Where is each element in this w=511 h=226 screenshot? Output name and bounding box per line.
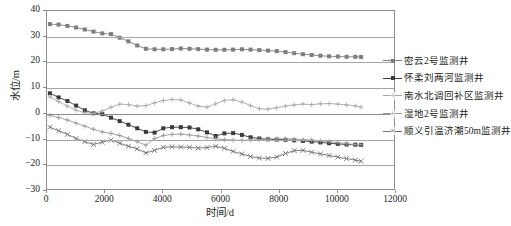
legend-marker-icon: × <box>383 125 402 137</box>
series-1 <box>48 22 363 59</box>
data-point <box>275 49 279 53</box>
y-tick-label: −10 <box>0 134 40 144</box>
series-line <box>50 115 361 145</box>
data-point <box>83 28 87 32</box>
data-point <box>196 127 200 131</box>
data-point <box>213 101 218 106</box>
data-point <box>117 141 122 146</box>
data-point <box>170 47 174 51</box>
data-point <box>74 104 78 108</box>
x-tick-label: 2000 <box>81 195 127 205</box>
data-point <box>187 133 192 138</box>
gridline-y-20 <box>47 62 394 63</box>
data-point <box>100 129 105 134</box>
y-tick-mark <box>43 36 46 37</box>
data-point <box>117 102 122 107</box>
data-point <box>161 47 165 51</box>
data-point <box>318 101 323 106</box>
x-tick-mark <box>279 190 280 193</box>
data-point <box>359 105 364 110</box>
data-point <box>239 100 244 105</box>
y-tick-label: −30 <box>0 185 40 195</box>
data-point <box>345 55 349 59</box>
data-point <box>283 151 288 156</box>
data-point <box>143 151 148 156</box>
data-point <box>57 23 61 27</box>
data-point <box>284 50 288 54</box>
data-point <box>117 133 122 138</box>
legend-label: 湿地2号监测井 <box>402 109 469 119</box>
x-tick-mark <box>337 190 338 193</box>
data-point <box>65 118 70 123</box>
data-point <box>301 102 306 107</box>
data-point <box>344 102 349 107</box>
gridline-y--10 <box>47 140 394 141</box>
data-point <box>126 144 131 149</box>
data-point <box>196 134 201 139</box>
data-point <box>57 95 61 99</box>
data-point <box>336 55 340 59</box>
legend-item-5[interactable]: ×顺义引温济潮50m监测井 <box>383 122 511 140</box>
chart-figure: 水位/m −30−20−10010203040 0200040006000800… <box>0 0 511 226</box>
data-point <box>161 126 165 130</box>
data-point <box>205 105 210 110</box>
data-point <box>118 119 122 123</box>
data-point <box>222 48 226 52</box>
legend-marker-icon: + <box>383 90 402 102</box>
data-point <box>161 133 166 138</box>
x-axis-title: 时间/d <box>150 204 290 219</box>
data-point <box>153 47 157 51</box>
data-point <box>56 128 61 133</box>
data-point <box>48 22 52 26</box>
data-point <box>196 47 200 51</box>
y-tick-mark <box>43 61 46 62</box>
legend-marker-icon: + <box>383 108 402 120</box>
data-point <box>310 53 314 57</box>
data-point <box>135 146 140 151</box>
data-point <box>231 149 236 154</box>
data-point <box>170 125 174 129</box>
legend-item-4[interactable]: +湿地2号监测井 <box>383 105 511 123</box>
legend-item-3[interactable]: +南水北调回补区监测井 <box>383 87 511 105</box>
data-point <box>170 97 175 102</box>
data-point <box>56 99 61 104</box>
data-point <box>74 108 79 113</box>
y-tick-mark <box>43 10 46 11</box>
legend-label: 密云2号监测井 <box>402 56 469 66</box>
data-point <box>74 121 79 126</box>
data-point <box>178 132 183 137</box>
data-point <box>231 131 235 135</box>
y-tick-mark <box>43 113 46 114</box>
data-point <box>327 101 332 106</box>
data-point <box>248 103 253 108</box>
data-point <box>318 54 322 58</box>
data-point <box>65 99 69 103</box>
data-point <box>301 52 305 56</box>
data-point <box>266 107 271 112</box>
series-layer <box>47 11 396 191</box>
data-point <box>152 148 157 153</box>
legend-item-2[interactable]: 怀柔刘两河监测井 <box>383 70 511 88</box>
data-point <box>65 104 70 109</box>
data-point <box>249 48 253 52</box>
x-tick-mark <box>104 190 105 193</box>
legend-item-1[interactable]: 密云2号监测井 <box>383 52 511 70</box>
data-point <box>135 126 139 130</box>
x-tick-label: 10000 <box>314 195 360 205</box>
data-point <box>222 131 226 135</box>
data-point <box>231 97 236 102</box>
data-point <box>335 102 340 107</box>
legend-marker-icon <box>383 72 402 84</box>
data-point <box>65 132 70 137</box>
series-line <box>50 97 361 113</box>
data-point <box>179 47 183 51</box>
data-point <box>359 55 363 59</box>
data-point <box>109 116 113 120</box>
data-point <box>153 131 157 135</box>
data-point <box>109 131 114 136</box>
y-tick-mark <box>43 87 46 88</box>
data-point <box>92 30 96 34</box>
x-tick-label: 12000 <box>372 195 418 205</box>
x-tick-mark <box>46 190 47 193</box>
y-tick-label: 20 <box>0 56 40 66</box>
